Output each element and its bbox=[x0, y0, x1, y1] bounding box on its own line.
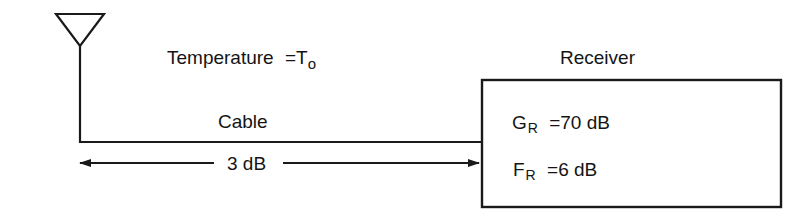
noise-figure-subscript: R bbox=[526, 167, 536, 183]
antenna-icon bbox=[56, 14, 104, 46]
receiver-title: Receiver bbox=[560, 48, 635, 67]
temperature-symbol: T bbox=[296, 47, 308, 68]
receiver-noise-figure: FR =6 dB bbox=[513, 160, 597, 179]
temperature-label: Temperature =To bbox=[167, 48, 316, 67]
diagram-canvas bbox=[0, 0, 809, 217]
receiver-box bbox=[482, 80, 781, 207]
temperature-equals: = bbox=[285, 47, 296, 68]
gain-symbol: G bbox=[512, 112, 527, 133]
noise-figure-symbol: F bbox=[513, 159, 525, 180]
gain-subscript: R bbox=[528, 120, 538, 136]
noise-figure-equals: = bbox=[547, 159, 558, 180]
cable-label: Cable bbox=[218, 112, 268, 131]
gain-equals: = bbox=[549, 112, 560, 133]
receiver-gain: GR =70 dB bbox=[512, 113, 610, 132]
noise-figure-value: 6 dB bbox=[558, 159, 597, 180]
temperature-text: Temperature bbox=[167, 47, 274, 68]
cable-loss-label: 3 dB bbox=[227, 154, 266, 173]
gain-value: 70 dB bbox=[560, 112, 610, 133]
temperature-subscript: o bbox=[308, 55, 316, 72]
